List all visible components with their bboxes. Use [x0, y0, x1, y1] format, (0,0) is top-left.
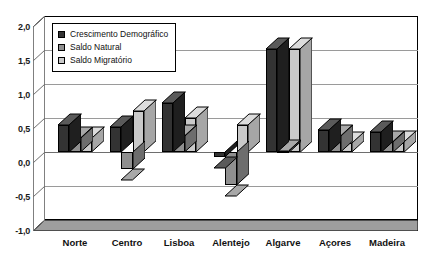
- y-tick-label: 2,0: [4, 23, 30, 32]
- legend-item: Saldo Natural: [58, 41, 168, 54]
- bar-top: [121, 169, 144, 180]
- bar-face: [266, 49, 277, 152]
- bar-side: [196, 107, 208, 152]
- bar-side: [289, 140, 301, 152]
- legend-label: Crescimento Demográfico: [70, 29, 168, 40]
- bar-side: [144, 100, 156, 152]
- chart-legend: Crescimento DemográficoSaldo NaturalSald…: [52, 23, 176, 72]
- bar-side: [248, 114, 260, 152]
- y-tick-label: -0,5: [4, 193, 30, 202]
- legend-label: Saldo Migratório: [70, 55, 132, 66]
- bar-chart: 2,01,51,00,50,0-0,5-1,0 NorteCentroLisbo…: [0, 0, 427, 261]
- bar-side: [81, 127, 93, 152]
- bar: [58, 125, 69, 152]
- bar-side: [352, 132, 364, 152]
- bar-face: [121, 152, 132, 169]
- bar-side: [277, 38, 289, 152]
- legend-swatch-dark-icon: [58, 31, 65, 38]
- bar: [121, 152, 132, 169]
- bar-face: [318, 130, 329, 152]
- bar: [370, 132, 381, 152]
- bar-side: [341, 125, 353, 152]
- legend-swatch-medium-icon: [58, 44, 65, 51]
- bar-face: [162, 103, 173, 152]
- x-axis: NorteCentroLisboaAlentejoAlgarveAçoresMa…: [33, 237, 418, 257]
- bar-face: [58, 125, 69, 152]
- y-axis: 2,01,51,00,50,0-0,5-1,0: [0, 0, 30, 261]
- bar-side: [185, 125, 197, 152]
- bar-side: [381, 121, 393, 152]
- y-tick-label: 0,0: [4, 159, 30, 168]
- bar-side: [225, 141, 237, 157]
- bar-side: [329, 119, 341, 152]
- bar-side: [404, 131, 416, 152]
- y-tick-label: 1,0: [4, 91, 30, 100]
- bar-side: [237, 141, 249, 185]
- bar-face: [370, 132, 381, 152]
- bar: [162, 103, 173, 152]
- bar-top: [225, 185, 248, 196]
- legend-item: Saldo Migratório: [58, 54, 168, 67]
- bar-side: [173, 92, 185, 152]
- x-tick-label: Madeira: [347, 237, 427, 249]
- y-tick-label: -1,0: [4, 227, 30, 236]
- bar: [266, 49, 277, 152]
- legend-label: Saldo Natural: [70, 42, 122, 53]
- y-tick-label: 1,5: [4, 57, 30, 66]
- bar-side: [92, 127, 104, 152]
- bar-side: [69, 114, 81, 152]
- bar-side: [133, 141, 145, 169]
- bar: [214, 152, 225, 157]
- bar-side: [393, 131, 405, 152]
- legend-swatch-light-icon: [58, 57, 65, 64]
- bar-side: [300, 38, 312, 152]
- bar: [318, 130, 329, 152]
- bar-side: [121, 116, 133, 152]
- bar: [110, 127, 121, 152]
- bar-top: [214, 157, 237, 168]
- legend-item: Crescimento Demográfico: [58, 28, 168, 41]
- y-tick-label: 0,5: [4, 125, 30, 134]
- bar-face: [289, 49, 300, 152]
- bar: [289, 49, 300, 152]
- bar-face: [110, 127, 121, 152]
